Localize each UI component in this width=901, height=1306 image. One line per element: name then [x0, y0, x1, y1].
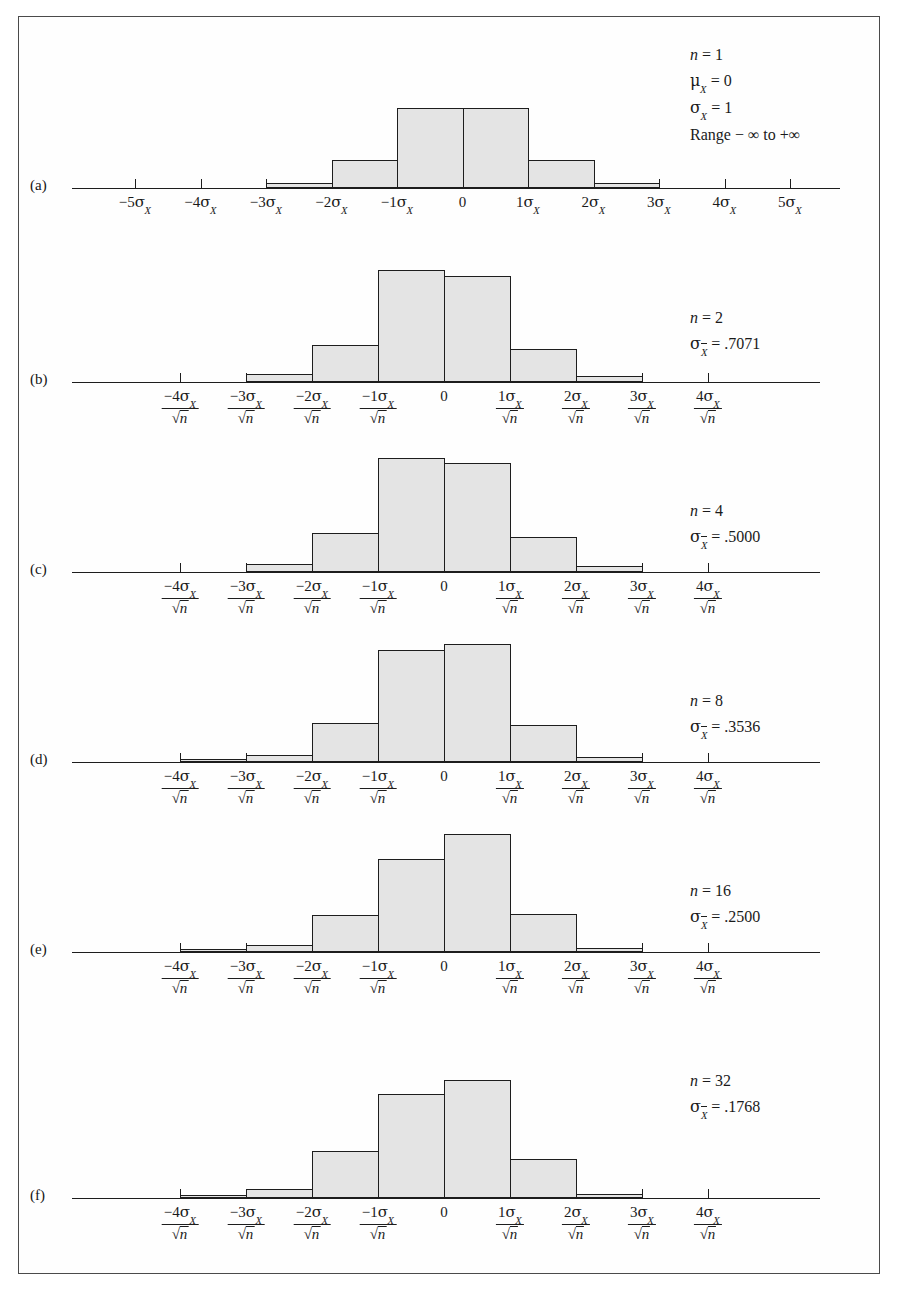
- histogram-bar: [576, 376, 643, 382]
- axis-tick-label: −4σX√n: [162, 389, 199, 427]
- axis-tick: [180, 1189, 181, 1198]
- axis-line: [72, 952, 820, 953]
- histogram-bar: [246, 945, 313, 952]
- histogram-bar: [444, 463, 511, 572]
- axis-line: [72, 762, 820, 763]
- histogram-bar: [444, 276, 511, 382]
- axis-tick: [642, 753, 643, 762]
- axis-tick-label: −3σX√n: [228, 1205, 265, 1243]
- axis-tick: [576, 753, 577, 762]
- axis-tick: [312, 943, 313, 952]
- panel-letter: (f): [30, 1187, 45, 1204]
- axis-tick: [790, 179, 791, 188]
- axis-tick: [312, 563, 313, 572]
- axis-tick: [708, 753, 709, 762]
- annotation-sample-size: n = 4: [690, 498, 760, 524]
- axis-tick-label: 2σX: [581, 195, 605, 213]
- histogram-bar: [378, 458, 445, 572]
- axis-tick: [180, 753, 181, 762]
- axis-tick-label: 4σX√n: [694, 579, 722, 617]
- axis-tick: [246, 1189, 247, 1198]
- axis-tick-label: 3σX: [647, 195, 671, 213]
- axis-tick: [642, 563, 643, 572]
- axis-tick-label: −1σX√n: [360, 579, 397, 617]
- histogram-bar: [594, 183, 661, 188]
- axis-tick: [708, 943, 709, 952]
- axis-tick-label: 1σX√n: [496, 389, 524, 427]
- axis-tick: [312, 753, 313, 762]
- histogram-bar: [180, 949, 247, 952]
- histogram-bar: [576, 1194, 643, 1198]
- axis-tick-label: −4σX√n: [162, 959, 199, 997]
- panel-annotation: n = 1μX = 0σX = 1Range − ∞ to +∞: [690, 42, 800, 148]
- annotation-sample-size: n = 16: [690, 878, 760, 904]
- axis-tick: [246, 373, 247, 382]
- histogram-bar: [444, 834, 511, 952]
- axis-tick: [444, 943, 445, 952]
- axis-tick: [444, 1189, 445, 1198]
- axis-tick-label: 2σX√n: [562, 959, 590, 997]
- axis-tick-label: −2σX: [315, 195, 348, 213]
- axis-tick: [510, 753, 511, 762]
- axis-line: [72, 1198, 820, 1199]
- axis-tick: [246, 753, 247, 762]
- histogram-bar: [444, 644, 511, 762]
- axis-tick: [463, 179, 464, 188]
- axis-tick: [246, 563, 247, 572]
- axis-tick-label: −4σX√n: [162, 769, 199, 807]
- panel-annotation: n = 16σX = .2500: [690, 878, 760, 931]
- axis-tick: [201, 179, 202, 188]
- panel-letter: (d): [30, 751, 48, 768]
- panel-letter: (e): [30, 941, 47, 958]
- axis-tick-label: −2σX√n: [294, 1205, 331, 1243]
- axis-tick: [708, 563, 709, 572]
- axis-tick-label: −2σX√n: [294, 579, 331, 617]
- histogram-bar: [528, 160, 595, 188]
- annotation-range: Range − ∞ to +∞: [690, 122, 800, 148]
- axis-tick: [594, 179, 595, 188]
- histogram-bar: [378, 270, 445, 382]
- histogram-bar: [312, 723, 379, 762]
- histogram-bar: [444, 1080, 511, 1198]
- axis-tick-label: 4σX: [712, 195, 736, 213]
- axis-tick-label: 3σX√n: [628, 769, 656, 807]
- histogram-bar: [576, 566, 643, 572]
- axis-tick-label: 0: [459, 195, 467, 211]
- axis-tick: [266, 179, 267, 188]
- axis-tick-label: 0: [440, 389, 448, 405]
- histogram-bar: [246, 755, 313, 762]
- histogram-bar: [312, 345, 379, 382]
- histogram-bar: [180, 759, 247, 762]
- annotation-sigma: σX = .5000: [690, 524, 760, 551]
- axis-tick: [659, 179, 660, 188]
- axis-tick-label: −5σX: [119, 195, 152, 213]
- axis-tick-label: −1σX√n: [360, 389, 397, 427]
- axis-tick-label: 1σX√n: [496, 579, 524, 617]
- axis-tick-label: 2σX√n: [562, 389, 590, 427]
- axis-tick-label: −3σX√n: [228, 579, 265, 617]
- axis-tick: [444, 563, 445, 572]
- axis-tick-label: 5σX: [778, 195, 802, 213]
- axis-tick-label: 1σX√n: [496, 959, 524, 997]
- histogram-bar: [246, 564, 313, 572]
- axis-tick-label: −2σX√n: [294, 769, 331, 807]
- histogram-bar: [332, 160, 399, 188]
- histogram-bar: [463, 108, 530, 188]
- axis-tick: [576, 373, 577, 382]
- axis-tick: [444, 373, 445, 382]
- panel-letter: (a): [30, 177, 47, 194]
- histogram-bar: [378, 859, 445, 952]
- axis-tick-label: 0: [440, 959, 448, 975]
- panel-annotation: n = 4σX = .5000: [690, 498, 760, 551]
- axis-tick: [397, 179, 398, 188]
- axis-tick: [510, 1189, 511, 1198]
- axis-tick: [378, 1189, 379, 1198]
- axis-tick-label: 4σX√n: [694, 769, 722, 807]
- axis-tick: [510, 943, 511, 952]
- axis-tick-label: 4σX√n: [694, 389, 722, 427]
- axis-tick-label: 1σX√n: [496, 769, 524, 807]
- axis-tick: [528, 179, 529, 188]
- axis-tick-label: 2σX√n: [562, 1205, 590, 1243]
- axis-line: [72, 572, 820, 573]
- annotation-sample-size: n = 8: [690, 688, 760, 714]
